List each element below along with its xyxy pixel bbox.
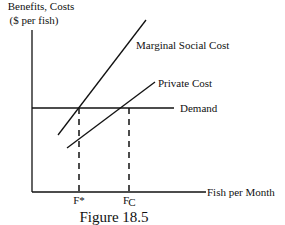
- demand-label: Demand: [180, 102, 218, 114]
- f-star-label: F*: [73, 194, 85, 206]
- f-c-subscript: C: [128, 196, 135, 208]
- private-cost-label: Private Cost: [158, 77, 212, 89]
- marginal-social-cost-curve: [58, 20, 146, 135]
- msc-label: Marginal Social Cost: [136, 39, 229, 51]
- externality-diagram: Benefits, Costs ($ per fish) Fish per Mo…: [0, 0, 285, 225]
- y-axis-label-line1: Benefits, Costs: [8, 0, 75, 12]
- y-axis-label-line2: ($ per fish): [10, 14, 59, 27]
- x-axis-label: Fish per Month: [207, 186, 275, 198]
- private-cost-curve: [67, 82, 155, 148]
- figure-caption: Figure 18.5: [79, 209, 148, 225]
